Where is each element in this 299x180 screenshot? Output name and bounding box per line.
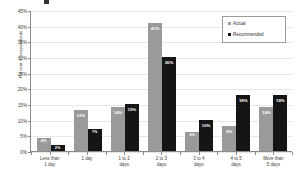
x-axis-tick-mark [273,152,274,155]
x-axis-tick-label: 1 day [68,152,105,178]
x-axis-tick-mark [199,152,200,155]
bar-recommended: 10% [199,120,213,151]
bar-group: 41%30% [143,11,180,151]
x-axis-tick-labels: Less than1 day1 day1 to 2days2 to 3days3… [31,152,292,178]
y-axis-tick-mark [28,74,31,75]
y-axis-tick-label: 40% [18,24,27,29]
x-axis-separator-mark [292,152,293,155]
bar-value-label: 7% [88,130,102,134]
x-axis-tick-mark [161,152,162,155]
x-axis-tick-label: 2 to 3days [143,152,180,178]
bar-value-label: 10% [199,123,213,128]
x-axis-tick-line: days [106,162,143,168]
y-axis-tick-label: 30% [18,56,27,61]
x-axis-tick-line: 5 days [255,162,292,168]
y-axis-tick-label: 15% [18,103,27,108]
bar-value-label: 30% [162,60,176,65]
x-axis-tick-mark [236,152,237,155]
x-axis-tick-line: days [217,162,254,168]
x-axis-tick-mark [50,152,51,155]
legend: Actual Recommended [222,16,286,43]
y-axis-tick-label: 10% [18,118,27,123]
bar-value-label: 8% [222,129,236,134]
bar-group: 14%15% [106,11,143,151]
x-axis-tick-label: 1 to 2days [106,152,143,178]
legend-label: Recommended [233,32,264,37]
y-axis-tick-mark [28,105,31,106]
bar-recommended: 18% [273,95,287,151]
y-axis-tick-mark [28,42,31,43]
bar-value-label: 2% [51,146,65,150]
y-axis-tick-label: 5% [20,134,27,139]
bar-value-label: 13% [74,113,88,118]
legend-item-recommended: Recommended [228,32,285,37]
bar-group: 4%2% [32,11,69,151]
x-axis-tick-line: days [180,162,217,168]
bar-recommended: 30% [162,57,176,151]
y-axis-tick-mark [28,89,31,90]
x-axis-separator-mark [143,152,144,155]
legend-label: Actual [233,21,246,26]
x-axis-separator-mark [31,152,32,155]
x-axis-separator-mark [217,152,218,155]
y-axis-tick-mark [28,121,31,122]
bar-value-label: 14% [259,110,273,115]
bar-value-label: 15% [125,107,139,112]
legend-swatch-icon [228,33,231,36]
bar-actual: 41% [148,23,162,151]
bar-actual: 6% [185,132,199,151]
bar-recommended: 2% [51,145,65,151]
bar-value-label: 14% [111,110,125,115]
bar-chart: Percent of respondents 0%5%10%15%20%25%3… [0,0,299,180]
x-axis-separator-mark [106,152,107,155]
x-axis-tick-line: 1 day [31,162,68,168]
bar-actual: 4% [37,138,51,151]
y-axis-tick-label: 45% [18,9,27,14]
y-axis-tick-label: 35% [18,40,27,45]
bar-value-label: 6% [185,133,199,137]
bar-recommended: 15% [125,104,139,151]
legend-swatch-icon [228,22,231,25]
y-axis-tick-mark [28,27,31,28]
y-axis-tick-mark [28,136,31,137]
x-axis-tick-mark [124,152,125,155]
x-axis-tick-label: 3 to 4days [180,152,217,178]
x-axis-separator-mark [180,152,181,155]
legend-item-actual: Actual [228,21,285,26]
y-axis-tick-label: 0% [20,150,27,155]
y-axis-tick-mark [28,11,31,12]
bar-actual: 14% [111,107,125,151]
x-axis-separator-mark [68,152,69,155]
x-axis-separator-mark [255,152,256,155]
top-marker [44,0,49,4]
y-axis-tick-label: 20% [18,87,27,92]
bar-value-label: 4% [37,139,51,143]
x-axis-tick-line: days [143,162,180,168]
bar-actual: 13% [74,110,88,151]
bar-value-label: 41% [148,26,162,31]
x-axis-tick-mark [87,152,88,155]
bar-recommended: 7% [88,129,102,151]
bar-actual: 8% [222,126,236,151]
bar-group: 13%7% [69,11,106,151]
bar-recommended: 18% [236,95,250,151]
bar-value-label: 18% [236,98,250,103]
x-axis-tick-label: 4 to 5days [217,152,254,178]
y-axis-tick-label: 25% [18,71,27,76]
y-axis-tick-mark [28,58,31,59]
bar-group: 6%10% [181,11,218,151]
x-axis-tick-label: More than5 days [255,152,292,178]
x-axis-tick-label: Less than1 day [31,152,68,178]
x-axis-tick-line: 1 day [68,156,105,162]
bar-actual: 14% [259,107,273,151]
bar-value-label: 18% [273,98,287,103]
